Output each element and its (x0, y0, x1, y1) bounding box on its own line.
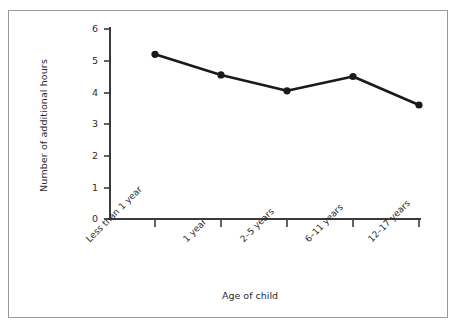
y-tick-label-5: 5 (76, 56, 98, 66)
data-point-1 (217, 71, 224, 78)
y-tick-label-0: 0 (76, 214, 98, 224)
plot-area (0, 0, 459, 331)
x-axis-title: Age of child (120, 290, 380, 301)
chart-figure: 6 5 4 3 2 1 0 Less than 1 year 1 year 2–… (0, 0, 459, 331)
y-tick-label-1: 1 (76, 183, 98, 193)
data-point-2 (283, 87, 290, 94)
y-tick-label-6: 6 (76, 24, 98, 34)
y-tick-label-2: 2 (76, 151, 98, 161)
series-line (155, 54, 419, 105)
series-markers (151, 51, 422, 109)
y-axis-title: Number of additional hours (38, 31, 49, 221)
data-point-4 (415, 101, 422, 108)
data-point-3 (349, 73, 356, 80)
y-tick-label-3: 3 (76, 119, 98, 129)
y-tick-label-4: 4 (76, 88, 98, 98)
data-point-0 (151, 51, 158, 58)
